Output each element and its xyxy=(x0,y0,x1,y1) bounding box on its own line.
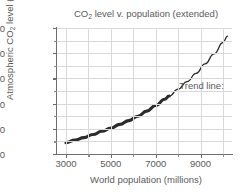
gridline-vertical xyxy=(156,28,157,154)
x-axis-tick-minor xyxy=(133,154,134,157)
gridline-horizontal xyxy=(57,28,232,29)
gridline-horizontal xyxy=(57,116,232,117)
gridline-vertical xyxy=(201,28,202,154)
gridline-horizontal xyxy=(57,141,232,142)
y-axis-tick xyxy=(53,53,57,54)
y-axis-tick xyxy=(53,78,57,79)
y-axis-tick-minor xyxy=(54,66,57,67)
y-axis-tick-label: 500 xyxy=(0,23,5,34)
gridline-vertical xyxy=(223,28,224,154)
gridline-horizontal xyxy=(57,41,232,42)
gridline-vertical xyxy=(66,28,67,154)
gridline-horizontal xyxy=(57,53,232,54)
y-axis-tick-label: 340 xyxy=(0,123,5,134)
y-axis-tick-label: 420 xyxy=(0,73,5,84)
y-axis-tick-minor xyxy=(54,91,57,92)
gridline-vertical xyxy=(88,28,89,154)
gridline-horizontal xyxy=(57,91,232,92)
chart-title-post: level v. population (extended) xyxy=(92,8,218,19)
y-axis-title-post: level (ppm) xyxy=(4,0,15,27)
x-axis-tick-label: 7000 xyxy=(145,158,166,169)
gridline-vertical xyxy=(133,28,134,154)
gridline-horizontal xyxy=(57,129,232,130)
gridline-vertical xyxy=(111,28,112,154)
gridline-horizontal xyxy=(57,66,232,67)
y-axis-tick-minor xyxy=(54,41,57,42)
y-axis-tick-label: 300 xyxy=(0,149,5,160)
x-axis-tick-minor xyxy=(178,154,179,157)
chart-title-pre: CO xyxy=(74,8,88,19)
y-axis-tick xyxy=(53,154,57,155)
y-axis-tick-label: 460 xyxy=(0,48,5,59)
x-axis-tick-minor xyxy=(88,154,89,157)
y-axis-tick xyxy=(53,28,57,29)
y-axis-title: Atmospheric CO2 level (ppm) xyxy=(4,0,15,101)
y-axis-tick-minor xyxy=(54,116,57,117)
plot-area xyxy=(57,28,232,154)
y-axis-tick xyxy=(53,104,57,105)
x-axis-tick-label: 3000 xyxy=(55,158,76,169)
chart-title: CO2 level v. population (extended) xyxy=(57,8,235,19)
x-axis-title: World population (millions) xyxy=(57,174,235,185)
chart-title-subscript: 2 xyxy=(88,13,92,20)
x-axis-tick-minor xyxy=(223,154,224,157)
x-axis-tick-label: 9000 xyxy=(190,158,211,169)
y-axis-title-pre: Atmospheric CO xyxy=(4,30,15,100)
y-axis-title-subscript: 2 xyxy=(9,27,16,31)
x-axis-tick-label: 5000 xyxy=(100,158,121,169)
gridline-vertical xyxy=(178,28,179,154)
chart-container: CO2 level v. population (extended) Atmos… xyxy=(0,0,241,193)
y-axis-tick-minor xyxy=(54,141,57,142)
y-axis-tick-label: 380 xyxy=(0,98,5,109)
gridline-horizontal xyxy=(57,104,232,105)
trend-line-label: Trend line: xyxy=(179,80,224,91)
y-axis-tick xyxy=(53,129,57,130)
